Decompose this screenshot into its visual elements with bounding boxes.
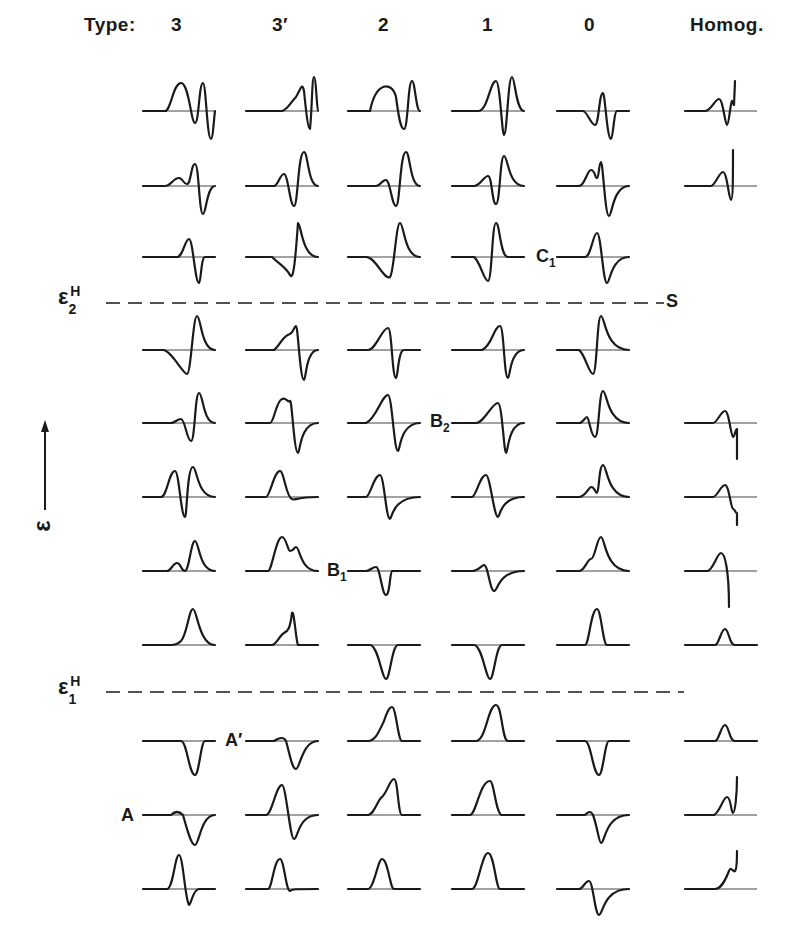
waveform-trace <box>143 164 215 214</box>
waveform-trace <box>143 609 215 645</box>
waveform-trace <box>246 537 318 571</box>
waveform-trace <box>348 567 420 595</box>
epsilon-axis-arrow-icon <box>41 420 49 510</box>
epsilon-2-h-label: ε2H <box>58 284 86 310</box>
waveform-trace <box>557 741 629 775</box>
label-b2: B2 <box>430 411 450 435</box>
waveform-trace <box>452 223 524 281</box>
waveform-trace <box>557 609 629 645</box>
waveform-trace <box>348 859 420 889</box>
waveform-trace <box>685 851 757 889</box>
waveform-trace <box>246 613 318 645</box>
waveform-trace <box>452 403 524 453</box>
waveform-trace <box>143 83 215 139</box>
waveform-trace <box>685 81 757 125</box>
waveform-trace <box>348 707 420 741</box>
waveform-grid <box>0 0 798 949</box>
waveform-trace <box>685 553 757 607</box>
waveform-trace <box>685 150 757 200</box>
waveform-trace <box>143 541 215 571</box>
waveform-trace <box>246 785 318 839</box>
waveform-trace <box>452 77 524 135</box>
label-a: A <box>121 805 134 826</box>
waveform-trace <box>685 485 757 525</box>
waveform-trace <box>348 395 420 451</box>
waveform-trace <box>452 853 524 889</box>
waveform-trace <box>452 326 524 378</box>
waveform-trace <box>246 471 318 500</box>
waveform-trace <box>143 316 215 374</box>
waveform-trace <box>557 316 629 374</box>
waveform-trace <box>557 93 629 139</box>
waveform-trace <box>685 629 757 645</box>
waveform-trace <box>557 233 629 283</box>
waveform-trace <box>143 393 215 441</box>
waveform-trace <box>143 239 215 283</box>
waveform-trace <box>246 859 318 891</box>
waveform-trace <box>348 475 420 519</box>
waveform-trace <box>246 77 318 129</box>
waveform-trace <box>246 399 318 453</box>
waveform-trace <box>685 411 757 459</box>
waveform-trace <box>348 81 420 129</box>
waveform-trace <box>452 565 524 591</box>
waveform-trace <box>348 223 420 277</box>
epsilon-1-h-label: ε1H <box>58 674 86 700</box>
waveform-trace <box>557 881 629 915</box>
waveform-trace <box>452 475 524 517</box>
waveform-trace <box>143 467 215 517</box>
epsilon-axis-label: ε <box>28 520 56 531</box>
waveform-cells <box>143 77 757 915</box>
waveform-trace <box>348 152 420 206</box>
label-c1: C1 <box>536 246 556 270</box>
waveform-trace <box>143 741 215 775</box>
waveform-trace <box>143 812 215 845</box>
waveform-trace <box>452 156 524 204</box>
waveform-trace <box>246 326 318 380</box>
label-a-prime: A′ <box>225 730 242 751</box>
label-b1: B1 <box>327 560 347 584</box>
waveform-trace <box>557 162 629 216</box>
waveform-trace <box>557 812 629 843</box>
waveform-trace <box>557 391 629 437</box>
waveform-trace <box>452 705 524 741</box>
label-s: S <box>666 291 678 312</box>
waveform-trace <box>246 738 318 769</box>
waveform-trace <box>452 645 524 679</box>
waveform-trace <box>348 779 420 815</box>
waveform-trace <box>452 781 524 815</box>
waveform-trace <box>246 223 318 276</box>
waveform-trace <box>557 465 629 497</box>
waveform-trace <box>143 855 215 905</box>
waveform-trace <box>348 328 420 378</box>
waveform-trace <box>685 777 757 815</box>
waveform-trace <box>557 537 629 571</box>
waveform-trace <box>348 645 420 679</box>
waveform-trace <box>246 152 318 206</box>
waveform-trace <box>685 725 757 741</box>
